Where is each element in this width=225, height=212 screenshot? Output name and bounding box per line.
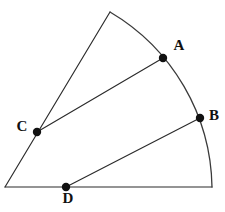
- point-c-dot: [33, 128, 41, 136]
- sector-arc: [110, 12, 212, 187]
- point-a-dot: [159, 54, 167, 62]
- point-d-label: D: [63, 190, 74, 206]
- point-b-label: B: [209, 107, 219, 123]
- chord-d-to-b: [66, 118, 200, 187]
- sector-figure: A B C D: [0, 0, 225, 212]
- point-a-label: A: [174, 37, 185, 53]
- point-c-label: C: [17, 118, 28, 134]
- upper-radius-segment: [5, 12, 110, 187]
- chord-c-to-a: [37, 58, 163, 132]
- geometry-diagram: A B C D: [0, 0, 225, 212]
- point-b-dot: [196, 114, 204, 122]
